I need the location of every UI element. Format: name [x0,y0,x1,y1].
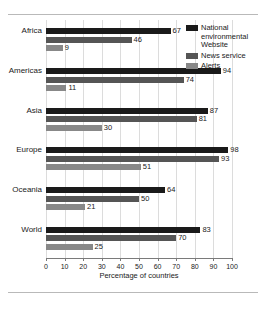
x-axis: 0102030405060708090100 [46,258,232,259]
bar-value-label: 93 [219,155,229,163]
bar [46,244,93,250]
bar-row: 11 [46,85,232,91]
x-axis-title: Percentage of countries [46,272,232,280]
bar-value-label: 74 [184,76,194,84]
bar [46,147,228,153]
category-label: Oceania [12,186,42,194]
axis-tick-label: 10 [61,263,69,270]
bar-value-label: 11 [66,84,76,92]
axis-tick [232,258,233,261]
bar-row: 21 [46,204,232,210]
bar-value-label: 64 [165,186,175,194]
category-label: Americas [9,67,42,75]
bar [46,108,208,114]
bar [46,37,132,43]
bar-value-label: 9 [63,45,69,53]
bar-group: 989351 [46,147,232,170]
axis-tick [65,258,66,261]
bar-value-label: 50 [139,195,149,203]
bar-value-label: 70 [176,234,186,242]
bar [46,116,197,122]
chart-legend: National environmental WebsiteNews servi… [186,24,264,73]
bar [46,235,176,241]
bar-row: 87 [46,108,232,114]
bar-row: 93 [46,156,232,162]
axis-tick [83,258,84,261]
axis-tick-label: 90 [209,263,217,270]
bar-value-label: 46 [132,36,142,44]
bar-row: 25 [46,244,232,250]
bar-value-label: 87 [208,107,218,115]
bar-group: 645021 [46,187,232,210]
axis-tick [195,258,196,261]
legend-swatch-icon [186,53,198,59]
axis-tick [120,258,121,261]
legend-swatch-icon [186,63,198,69]
bar [46,196,139,202]
category-label: Europe [16,146,42,154]
axis-tick-label: 40 [116,263,124,270]
axis-tick [46,258,47,261]
bar [46,45,63,51]
bar-row: 83 [46,227,232,233]
bar-row: 74 [46,77,232,83]
legend-label: Alerts [201,62,220,71]
axis-tick-label: 50 [135,263,143,270]
legend-swatch-icon [186,25,198,31]
axis-tick-label: 60 [154,263,162,270]
legend-label: National environmental Website [201,24,264,50]
bar-value-label: 83 [200,226,210,234]
bar [46,28,171,34]
bar-value-label: 67 [171,28,181,36]
axis-tick [213,258,214,261]
axis-tick [102,258,103,261]
bar-value-label: 51 [141,164,151,172]
bar-value-label: 98 [228,147,238,155]
bar [46,187,165,193]
bar [46,204,85,210]
axis-tick [176,258,177,261]
axis-tick-label: 0 [44,263,48,270]
bar [46,164,141,170]
bar [46,227,200,233]
axis-tick-label: 70 [172,263,180,270]
bar-value-label: 81 [197,115,207,123]
bar-row: 70 [46,235,232,241]
axis-tick-label: 30 [98,263,106,270]
bar-row: 98 [46,147,232,153]
bar [46,77,184,83]
bottom-divider [8,292,258,293]
bar-chart: AfricaAmericasAsiaEuropeOceaniaWorld 674… [0,20,266,288]
legend-item: News service [186,52,264,61]
bar-row: 50 [46,196,232,202]
bar-group: 837025 [46,227,232,250]
axis-tick-label: 80 [191,263,199,270]
bar [46,125,102,131]
category-axis-labels: AfricaAmericasAsiaEuropeOceaniaWorld [0,20,42,258]
bar-row: 51 [46,164,232,170]
bar-value-label: 30 [102,124,112,132]
legend-label: News service [201,52,246,61]
axis-tick [139,258,140,261]
bar-row: 64 [46,187,232,193]
category-label: Asia [26,107,42,115]
bar [46,156,219,162]
bar-value-label: 21 [85,203,95,211]
bar-row: 81 [46,116,232,122]
axis-tick-label: 100 [226,263,238,270]
bar-row: 30 [46,125,232,131]
axis-tick-label: 20 [79,263,87,270]
bar-value-label: 25 [93,243,103,251]
axis-tick [158,258,159,261]
bar-group: 878130 [46,108,232,131]
top-divider [8,14,258,15]
category-label: World [21,226,42,234]
legend-item: Alerts [186,62,264,71]
bar [46,85,66,91]
legend-item: National environmental Website [186,24,264,50]
category-label: Africa [22,27,42,35]
